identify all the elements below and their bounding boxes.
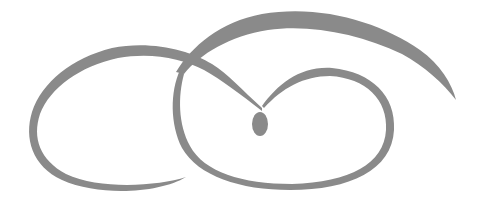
- swirl-flourish-graphic: [0, 0, 489, 210]
- left-loop-stroke: [29, 45, 262, 191]
- teardrop-terminal: [252, 112, 268, 136]
- right-loop-stroke: [173, 68, 394, 190]
- top-arc-stroke: [176, 11, 456, 100]
- flourish-canvas: [0, 0, 489, 210]
